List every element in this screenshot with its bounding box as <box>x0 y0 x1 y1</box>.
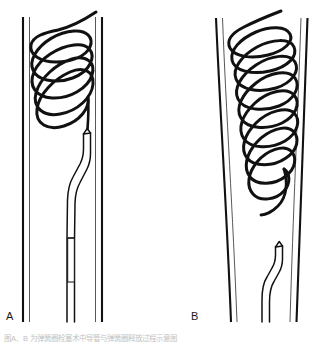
figure-caption: 图A、B 为弹簧圈栓塞术中导管与弹簧圈释放过程示意图 <box>4 334 318 342</box>
panel-label-b: B <box>191 311 198 322</box>
panel-a-coil-tail <box>88 97 89 129</box>
figure-root: A B 图A、B 为弹簧圈栓塞术中导管与弹簧圈释放过程示意图 <box>0 0 322 342</box>
panel-label-a: A <box>6 311 13 322</box>
embolization-figure-illustration <box>0 0 322 342</box>
panel-a-catheter-marker-band <box>68 238 75 282</box>
figure-background <box>0 0 322 342</box>
